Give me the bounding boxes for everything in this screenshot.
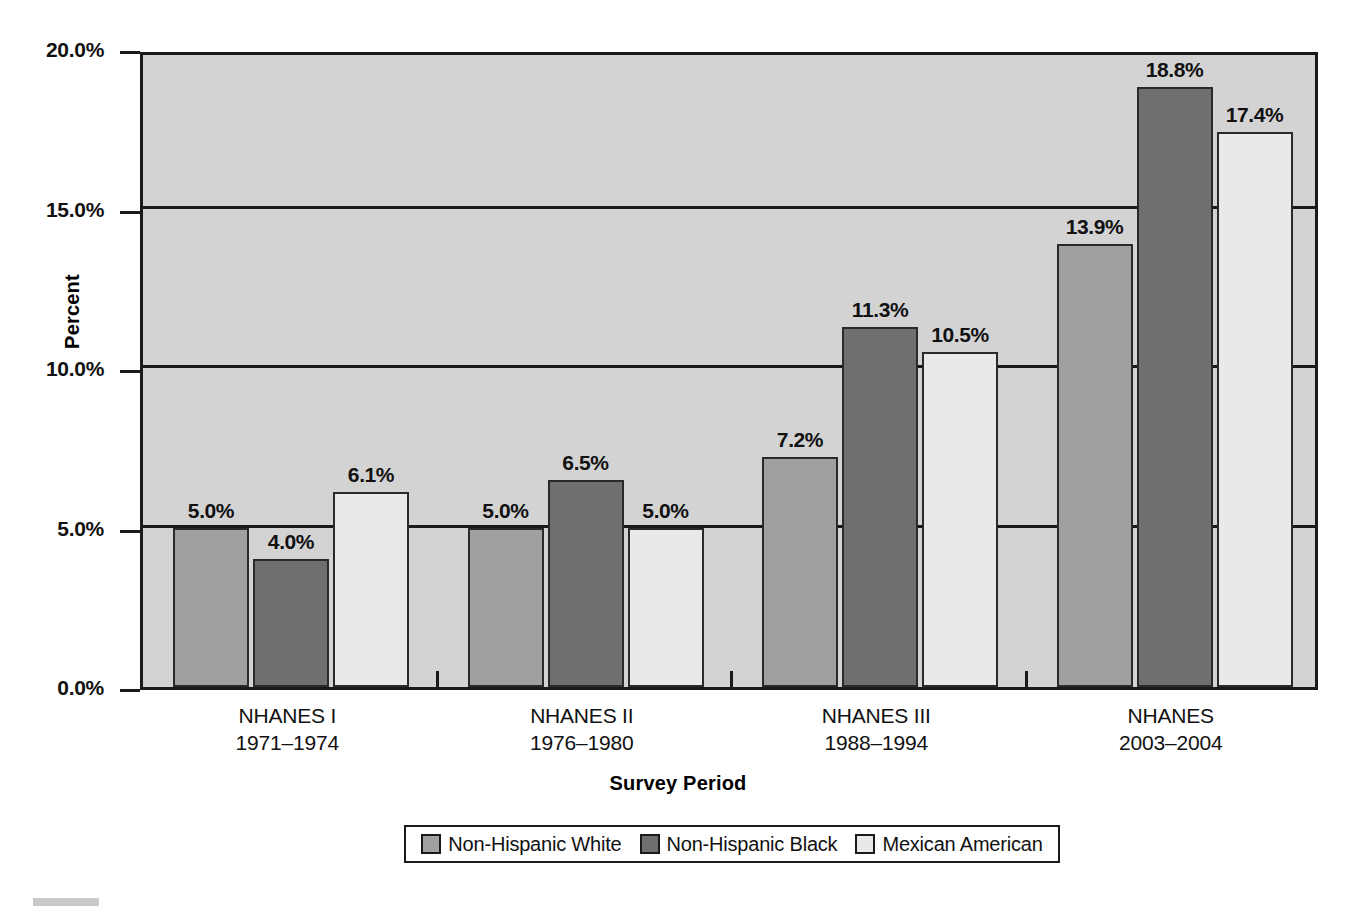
bar-value-label: 6.1%: [315, 463, 427, 487]
x-category-years: 1988–1994: [729, 729, 1024, 756]
x-category-years: 1971–1974: [140, 729, 435, 756]
bar-value-label: 6.5%: [530, 451, 642, 475]
bar: [628, 528, 704, 688]
bar: [468, 528, 544, 688]
x-tick-mark: [1025, 671, 1028, 687]
plot-inner: 5.0%4.0%6.1%5.0%6.5%5.0%7.2%11.3%10.5%13…: [143, 55, 1315, 687]
bar: [333, 492, 409, 687]
bottom-rule: [33, 898, 99, 906]
x-category-label: NHANES II1976–1980: [435, 702, 730, 756]
bar-value-label: 10.5%: [904, 323, 1016, 347]
legend-label: Non-Hispanic White: [448, 833, 621, 856]
x-category-name: NHANES I: [140, 702, 435, 729]
legend-swatch-icon: [421, 834, 441, 854]
bar-value-label: 17.4%: [1199, 103, 1311, 127]
bar-value-label: 18.8%: [1119, 58, 1231, 82]
x-category-years: 1976–1980: [435, 729, 730, 756]
bar-value-label: 4.0%: [235, 530, 347, 554]
bar-value-label: 11.3%: [824, 298, 936, 322]
x-category-name: NHANES II: [435, 702, 730, 729]
legend-swatch-icon: [855, 834, 875, 854]
bar-value-label: 5.0%: [610, 499, 722, 523]
x-axis-title: Survey Period: [0, 772, 1356, 795]
y-tick-mark: [120, 370, 140, 373]
legend-entry: Non-Hispanic Black: [631, 833, 847, 856]
y-tick-label: 15.0%: [4, 198, 104, 222]
plot-area: 5.0%4.0%6.1%5.0%6.5%5.0%7.2%11.3%10.5%13…: [140, 52, 1318, 690]
legend-label: Mexican American: [882, 833, 1042, 856]
y-tick-label: 0.0%: [4, 676, 104, 700]
legend-entry: Non-Hispanic White: [412, 833, 630, 856]
bar: [842, 327, 918, 687]
y-tick-mark: [120, 689, 140, 692]
chart-figure: Percent 20.0%15.0%10.0%5.0%0.0% 5.0%4.0%…: [0, 0, 1356, 914]
bar-value-label: 13.9%: [1039, 215, 1151, 239]
bar-value-label: 5.0%: [155, 499, 267, 523]
y-tick-mark: [120, 51, 140, 54]
x-category-label: NHANES III1988–1994: [729, 702, 1024, 756]
bar: [1137, 87, 1213, 687]
x-tick-mark: [436, 671, 439, 687]
y-tick-mark: [120, 211, 140, 214]
bar-value-label: 5.0%: [450, 499, 562, 523]
legend-swatch-icon: [640, 834, 660, 854]
x-category-label: NHANES2003–2004: [1024, 702, 1319, 756]
x-category-label: NHANES I1971–1974: [140, 702, 435, 756]
chart-legend: Non-Hispanic WhiteNon-Hispanic BlackMexi…: [404, 825, 1060, 863]
bar: [922, 352, 998, 687]
legend-entry: Mexican American: [846, 833, 1051, 856]
x-tick-mark: [730, 671, 733, 687]
x-category-name: NHANES: [1024, 702, 1319, 729]
bar-value-label: 7.2%: [744, 428, 856, 452]
y-tick-label: 10.0%: [4, 357, 104, 381]
bar: [1057, 244, 1133, 687]
y-tick-label: 5.0%: [4, 517, 104, 541]
y-tick-mark: [120, 530, 140, 533]
bar: [762, 457, 838, 687]
bar: [1217, 132, 1293, 687]
y-tick-label: 20.0%: [4, 38, 104, 62]
x-category-years: 2003–2004: [1024, 729, 1319, 756]
bar: [253, 559, 329, 687]
legend-label: Non-Hispanic Black: [667, 833, 838, 856]
x-category-name: NHANES III: [729, 702, 1024, 729]
